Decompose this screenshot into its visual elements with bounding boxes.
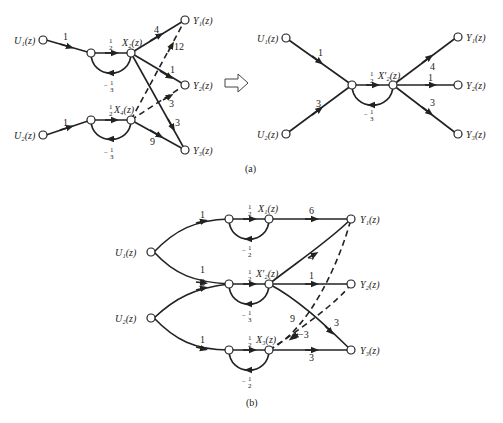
label-u2: U₂(z) xyxy=(115,313,137,325)
node-sum xyxy=(348,81,356,89)
node-u1 xyxy=(147,248,155,256)
gain-label: − xyxy=(242,247,246,255)
feedback-loop-x4 xyxy=(91,120,131,140)
caption-a: (a) xyxy=(245,163,256,175)
caption-b: (b) xyxy=(246,397,258,409)
node-y1 xyxy=(347,215,355,223)
label-u1: U₁(z) xyxy=(115,247,137,259)
node-x2-prime xyxy=(265,280,273,288)
feedback-loop-x2 xyxy=(91,53,131,73)
gain-label: 12 xyxy=(174,41,184,52)
label-y1: Y₁(z) xyxy=(360,214,380,226)
gain-label: 3 xyxy=(200,277,205,288)
label-x2-prime: X′₂(z) xyxy=(255,268,279,280)
node-u2 xyxy=(147,314,155,322)
node-sum-1 xyxy=(87,49,95,57)
gain-label: 9 xyxy=(150,136,155,147)
gain-label: 3 xyxy=(334,317,339,328)
gain-label: 3 xyxy=(110,86,114,94)
gain-label: 1 xyxy=(63,31,68,42)
node-x4 xyxy=(127,116,135,124)
node-y1 xyxy=(181,16,189,24)
label-y2: Y₂(z) xyxy=(360,279,380,291)
gain-label: 4 xyxy=(309,251,314,262)
diagram-a-right: U₁(z) U₂(z) X′₂(z) Y₁(z) Y₂(z) Y₃(z) 1 3… xyxy=(257,32,486,141)
gain-label: 1 xyxy=(309,270,314,281)
label-x2: X₂(z) xyxy=(121,37,143,49)
gain-label: 2 xyxy=(248,382,252,390)
feedback-loop-x2-prime xyxy=(352,85,393,105)
node-x1 xyxy=(265,215,273,223)
transform-arrow-icon xyxy=(225,74,248,92)
label-y3: Y₃(z) xyxy=(466,129,486,141)
node-sum-2 xyxy=(225,280,233,288)
node-y2 xyxy=(347,280,355,288)
gain-label: 4 xyxy=(154,24,159,35)
diagram-a-left: U₁(z) U₂(z) X₂(z) X₄(z) Y₁(z) Y₂(z) Y₃(z… xyxy=(14,15,213,161)
label-y3: Y₃(z) xyxy=(360,345,380,357)
node-x2 xyxy=(127,49,135,57)
node-u1 xyxy=(39,36,47,44)
gain-label: 3 xyxy=(430,97,435,108)
gain-label: 2 xyxy=(109,44,113,52)
label-x2-prime: X′₂(z) xyxy=(377,70,401,82)
gain-label: − xyxy=(242,378,246,386)
label-x3: X₃(z) xyxy=(255,334,277,346)
node-y3 xyxy=(181,146,189,154)
label-y1: Y₁(z) xyxy=(466,32,486,44)
diagram-b: U₁(z) U₂(z) X₁(z) X′₂(z) X₃(z) Y₁(z) Y₂(… xyxy=(115,203,380,390)
gain-label: 2 xyxy=(248,251,252,259)
node-y1 xyxy=(454,33,462,41)
gain-label: 2 xyxy=(248,275,252,283)
gain-label: 2 xyxy=(370,77,374,85)
gain-label: 4 xyxy=(430,61,435,72)
node-u2 xyxy=(282,130,290,138)
signal-flow-graph-figure: U₁(z) U₂(z) X₂(z) X₄(z) Y₁(z) Y₂(z) Y₃(z… xyxy=(0,0,503,423)
node-y2 xyxy=(454,81,462,89)
gain-label: 2 xyxy=(248,210,252,218)
label-y1: Y₁(z) xyxy=(193,15,213,27)
node-y2 xyxy=(181,81,189,89)
node-sum-2 xyxy=(87,116,95,124)
gain-label: − xyxy=(104,82,108,90)
label-y3: Y₃(z) xyxy=(193,145,213,157)
gain-label: − xyxy=(104,149,108,157)
gain-label: 3 xyxy=(110,153,114,161)
gain-label: − xyxy=(364,111,368,119)
gain-label: 9 xyxy=(290,313,295,324)
label-x1: X₁(z) xyxy=(257,203,279,215)
gain-label: 2 xyxy=(248,341,252,349)
gain-label: 2 xyxy=(109,110,113,118)
gain-label: 1 xyxy=(63,117,68,128)
label-u1: U₁(z) xyxy=(257,33,279,45)
node-u1 xyxy=(282,34,290,42)
gain-label: 3 xyxy=(309,352,314,363)
gain-label: − xyxy=(242,312,246,320)
gain-label: 1 xyxy=(200,264,205,275)
node-y3 xyxy=(347,346,355,354)
gain-label: 3 xyxy=(316,98,321,109)
gain-label: 1 xyxy=(170,64,175,75)
node-y3 xyxy=(454,130,462,138)
node-x3 xyxy=(265,346,273,354)
node-x2-prime xyxy=(389,81,397,89)
gain-label: 1 xyxy=(428,72,433,83)
label-u1: U₁(z) xyxy=(14,35,36,47)
gain-label: 1 xyxy=(200,209,205,220)
gain-label: 1 xyxy=(200,334,205,345)
gain-label: 6 xyxy=(309,205,314,216)
gain-label: 1 xyxy=(318,47,323,58)
gain-label: 3 xyxy=(175,117,180,128)
gain-label: −3 xyxy=(298,329,309,340)
label-y2: Y₂(z) xyxy=(466,80,486,92)
node-u2 xyxy=(39,131,47,139)
label-u2: U₂(z) xyxy=(14,130,36,142)
node-sum-1 xyxy=(225,215,233,223)
gain-label: 3 xyxy=(169,98,174,109)
gain-label: 3 xyxy=(370,115,374,123)
label-y2: Y₂(z) xyxy=(193,80,213,92)
gain-label: 3 xyxy=(248,316,252,324)
label-u2: U₂(z) xyxy=(257,129,279,141)
label-x4: X₄(z) xyxy=(113,104,135,116)
node-sum-3 xyxy=(225,346,233,354)
